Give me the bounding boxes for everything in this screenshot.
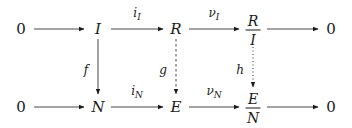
label-h: h: [236, 63, 244, 77]
node-R-over-I: R I: [246, 14, 261, 47]
frac-denominator: N: [247, 111, 259, 125]
node-N: N: [91, 100, 104, 115]
label-nu-N: νN: [206, 84, 221, 100]
label-nu-I: νI: [209, 6, 220, 22]
label-g: g: [159, 63, 167, 77]
fraction-bar: [246, 108, 261, 109]
frac-denominator: I: [250, 33, 256, 47]
label-sub: I: [137, 12, 141, 22]
node-R: R: [170, 22, 181, 37]
node-zero-bottom-right: 0: [326, 100, 336, 115]
node-zero-top-right: 0: [326, 22, 336, 37]
node-I: I: [95, 22, 101, 37]
label-sub: N: [214, 90, 222, 100]
fraction-bar: [246, 30, 261, 31]
node-E-over-N: E N: [246, 92, 261, 125]
node-E: E: [171, 100, 182, 115]
label-f: f: [84, 63, 88, 77]
label-i-N: iN: [131, 84, 143, 100]
label-sub: I: [216, 12, 220, 22]
frac-numerator: R: [248, 14, 259, 28]
node-zero-top-left: 0: [16, 22, 26, 37]
label-i-I: iI: [133, 6, 140, 22]
frac-numerator: E: [248, 92, 258, 106]
label-sub: N: [135, 90, 143, 100]
node-zero-bottom-left: 0: [16, 100, 26, 115]
